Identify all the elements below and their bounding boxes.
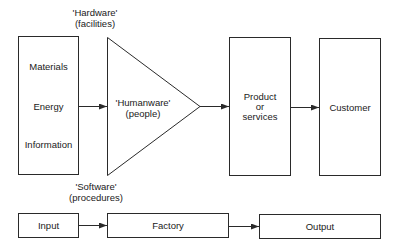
- materials-label: Materials: [18, 61, 79, 72]
- energy-label: Energy: [18, 101, 79, 112]
- software-label-line2: (procedures): [60, 192, 132, 203]
- software-label: 'Software' (procedures): [60, 181, 132, 203]
- humanware-label-line2: (people): [112, 108, 174, 119]
- humanware-label-line1: 'Humanware': [112, 97, 174, 108]
- product-label-line3: services: [229, 112, 291, 122]
- diagram-canvas: [0, 0, 398, 251]
- software-label-line1: 'Software': [60, 181, 132, 192]
- hardware-label-line1: 'Hardware': [62, 7, 128, 18]
- humanware-label: 'Humanware' (people): [112, 97, 174, 119]
- output-label: Output: [259, 221, 381, 232]
- product-label: Product or services: [229, 92, 291, 122]
- input-label: Input: [18, 220, 79, 231]
- hardware-label-line2: (facilities): [62, 18, 128, 29]
- factory-label: Factory: [107, 220, 229, 231]
- customer-label: Customer: [319, 102, 381, 113]
- information-label: Information: [18, 139, 79, 150]
- hardware-label: 'Hardware' (facilities): [62, 7, 128, 29]
